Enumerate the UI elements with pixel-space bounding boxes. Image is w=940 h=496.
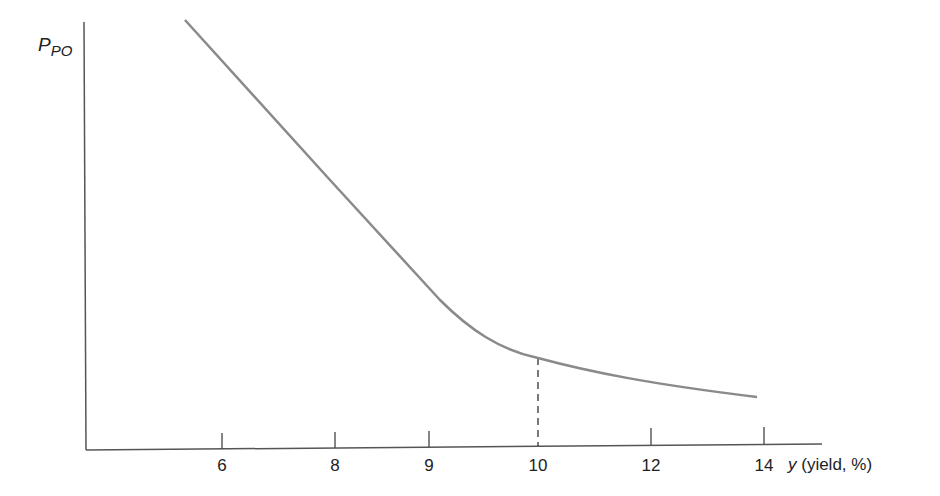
- x-tick-label-8: 8: [330, 456, 339, 476]
- x-tick-label-10: 10: [529, 456, 548, 476]
- y-axis-label: PPO: [38, 34, 72, 59]
- x-axis: [86, 444, 822, 450]
- y-axis: [84, 22, 86, 450]
- x-tick-label-9: 9: [424, 456, 433, 476]
- x-tick-label-14: 14: [755, 456, 774, 476]
- x-tick-label-6: 6: [217, 456, 226, 476]
- chart-canvas: [0, 0, 940, 496]
- x-axis-label: y (yield, %): [788, 455, 872, 475]
- price-curve: [185, 20, 757, 397]
- x-tick-label-12: 12: [642, 456, 661, 476]
